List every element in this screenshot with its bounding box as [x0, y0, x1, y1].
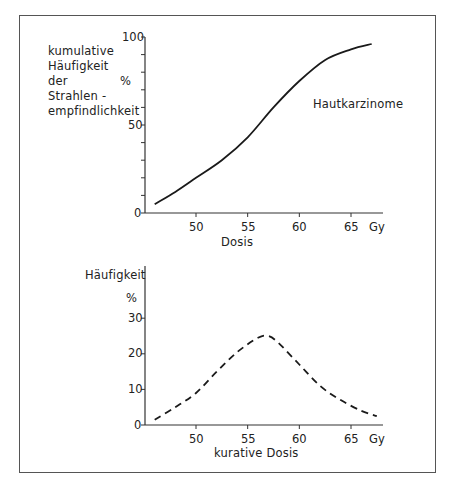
bottom-unit-percent: %	[126, 291, 137, 306]
top-ylabel-line-4: Strahlen -	[48, 89, 106, 104]
bottom-xlabel: kurative Dosis	[214, 446, 298, 461]
bottom-ytick-20: 20	[128, 346, 143, 360]
top-x-unit: Gy	[369, 220, 385, 234]
bottom-xtick-55: 55	[241, 432, 256, 446]
top-ytick-50: 50	[128, 118, 143, 132]
bottom-ytick-10: 10	[128, 382, 143, 396]
top-ylabel-line-3: der	[48, 74, 68, 89]
top-unit-percent: %	[120, 74, 131, 89]
data-line	[155, 44, 372, 204]
bottom-ytick-30: 30	[128, 311, 143, 325]
bottom-x-unit: Gy	[369, 432, 385, 446]
top-annotation: Hautkarzinome	[313, 97, 403, 112]
top-ylabel-line-5: empfindlichkeit	[48, 104, 139, 119]
top-xtick-60: 60	[292, 220, 307, 234]
bottom-xtick-60: 60	[292, 432, 307, 446]
top-xtick-50: 50	[189, 220, 204, 234]
top-ytick-100: 100	[122, 30, 144, 44]
top-ylabel-line-2: Häufigkeit	[48, 59, 109, 74]
bottom-xtick-65: 65	[344, 432, 359, 446]
top-xlabel: Dosis	[221, 235, 253, 250]
top-xtick-55: 55	[241, 220, 256, 234]
top-ytick-0: 0	[134, 206, 141, 220]
bottom-xtick-50: 50	[189, 432, 204, 446]
top-xtick-65: 65	[344, 220, 359, 234]
bottom-ytick-0: 0	[134, 418, 141, 432]
data-line	[155, 335, 377, 419]
top-ylabel-line-1: kumulative	[48, 44, 114, 59]
bottom-ylabel: Häufigkeit	[85, 268, 146, 283]
